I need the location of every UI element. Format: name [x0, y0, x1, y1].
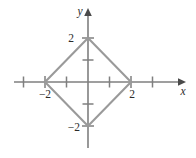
x-axis-label-2: 2	[129, 88, 135, 100]
coordinate-plane-svg: 2 −2 −2 2 y x	[0, 0, 196, 158]
y-axis-label-neg2: −2	[68, 121, 80, 133]
y-axis-arrowhead	[84, 8, 92, 16]
x-axis-title: x	[179, 85, 186, 97]
graph-figure: 2 −2 −2 2 y x	[0, 0, 196, 158]
y-axis-title: y	[76, 5, 83, 18]
y-axis-label-2: 2	[68, 32, 74, 44]
x-axis-label-neg2: −2	[39, 88, 51, 100]
